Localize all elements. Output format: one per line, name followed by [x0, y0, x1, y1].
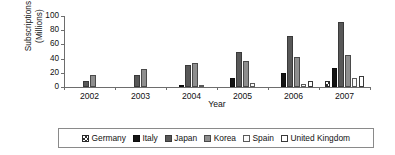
bar-korea-2004 [192, 63, 197, 87]
bar-japan-2002 [83, 81, 88, 87]
legend-label: Germany [91, 134, 125, 143]
y-tick-mark [61, 59, 64, 60]
x-tick-mark [217, 87, 218, 90]
chart-legend: GermanyItalyJapanKoreaSpainUnited Kingdo… [58, 128, 374, 148]
legend-label: Italy [142, 134, 157, 143]
legend-label: Korea [214, 134, 236, 143]
legend-swatch-icon [243, 135, 250, 142]
legend-swatch-icon [133, 135, 140, 142]
x-tick-mark [115, 87, 116, 90]
legend-item-japan: Japan [165, 134, 197, 143]
y-tick-label: 100 [45, 12, 59, 20]
bar-united-kingdom-2007 [359, 76, 364, 87]
x-axis-title: Year [64, 100, 370, 109]
bar-korea-2006 [294, 57, 299, 87]
bar-korea-2003 [141, 69, 146, 87]
bar-japan-2005 [236, 52, 241, 88]
legend-item-germany: Germany [82, 134, 126, 143]
bar-korea-2005 [243, 61, 248, 87]
y-tick-mark [61, 30, 64, 31]
bar-korea-2002 [90, 75, 95, 87]
bar-united-kingdom-2006 [308, 81, 313, 87]
y-tick-label: 40 [50, 54, 59, 62]
y-axis-title-line2: (Millions) [35, 9, 44, 43]
legend-swatch-icon [281, 135, 288, 142]
bar-italy-2006 [281, 73, 286, 87]
bar-spain-2006 [301, 84, 306, 87]
bar-chart-figure: Subscriptions(Millions) 020406080100 200… [0, 0, 395, 155]
y-tick-label: 60 [50, 40, 59, 48]
y-tick-mark [61, 73, 64, 74]
legend-label: Spain [253, 134, 274, 143]
y-tick-mark [61, 44, 64, 45]
legend-label: Japan [174, 134, 197, 143]
bar-italy-2005 [230, 78, 235, 87]
bar-spain-2004 [199, 85, 204, 87]
x-tick-mark [166, 87, 167, 90]
bar-japan-2003 [134, 75, 139, 87]
x-tick-mark [370, 87, 371, 90]
bar-japan-2004 [185, 65, 190, 87]
bar-spain-2007 [352, 78, 357, 87]
legend-label: United Kingdom [290, 134, 350, 143]
x-tick-mark [64, 87, 65, 90]
y-tick-label: 20 [50, 69, 59, 77]
legend-swatch-icon [204, 135, 211, 142]
y-axis-line [64, 16, 65, 87]
bar-germany-2007 [325, 81, 330, 87]
bar-korea-2007 [345, 55, 350, 87]
legend-swatch-icon [165, 135, 172, 142]
y-axis-title-line1: Subscriptions [24, 1, 33, 51]
plot-area: 020406080100 200220032004200520062007 [64, 16, 370, 87]
bar-italy-2004 [179, 85, 184, 87]
legend-swatch-icon [82, 135, 89, 142]
y-tick-mark [61, 16, 64, 17]
x-tick-mark [319, 87, 320, 90]
legend-item-united-kingdom: United Kingdom [281, 134, 350, 143]
legend-item-italy: Italy [133, 134, 158, 143]
bar-japan-2006 [287, 36, 292, 87]
bar-italy-2007 [332, 68, 337, 87]
bar-spain-2005 [250, 83, 255, 87]
bar-japan-2007 [338, 22, 343, 87]
legend-item-spain: Spain [243, 134, 274, 143]
legend-item-korea: Korea [204, 134, 236, 143]
y-tick-label: 80 [50, 26, 59, 34]
y-tick-label: 0 [54, 83, 59, 91]
x-tick-mark [268, 87, 269, 90]
